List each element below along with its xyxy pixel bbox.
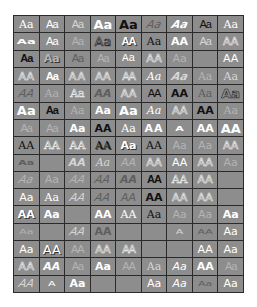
wordart-style-option[interactable]: Aa — [142, 206, 167, 222]
wordart-style-option[interactable]: AA — [116, 189, 141, 205]
wordart-style-option[interactable]: AA — [91, 120, 116, 136]
wordart-style-option[interactable]: Aa — [65, 120, 90, 136]
wordart-style-option[interactable]: AA — [193, 103, 218, 119]
wordart-style-option[interactable]: AA — [193, 120, 218, 136]
wordart-style-option[interactable]: AA — [167, 172, 192, 188]
wordart-style-option[interactable]: Aa — [193, 85, 218, 101]
wordart-style-option[interactable]: Aa — [40, 103, 65, 119]
wordart-style-option[interactable]: AA — [65, 155, 90, 171]
wordart-style-option[interactable]: AA — [218, 33, 243, 49]
wordart-style-option[interactable]: AA — [14, 206, 39, 222]
wordart-style-option[interactable]: AA — [142, 137, 167, 153]
wordart-style-option[interactable]: Aa — [65, 16, 90, 32]
wordart-style-option[interactable]: Aa — [167, 276, 192, 292]
wordart-style-option[interactable]: Aa — [116, 137, 141, 153]
wordart-style-option[interactable]: Aa — [142, 258, 167, 274]
wordart-style-option[interactable]: Aa — [40, 85, 65, 101]
wordart-style-option[interactable]: Aa — [14, 33, 39, 49]
wordart-style-option[interactable]: Aa — [40, 189, 65, 205]
wordart-style-option[interactable]: AA — [142, 189, 167, 205]
wordart-style-option[interactable]: Aa — [14, 51, 39, 67]
wordart-style-option[interactable]: Aa — [218, 258, 243, 274]
wordart-style-option[interactable]: Aa — [167, 51, 192, 67]
wordart-style-option[interactable]: Aa — [65, 85, 90, 101]
wordart-style-option[interactable]: Aa — [14, 172, 39, 188]
wordart-style-option[interactable]: AA — [91, 189, 116, 205]
wordart-style-option[interactable]: Aa — [193, 16, 218, 32]
wordart-style-option[interactable]: Aa — [14, 224, 39, 240]
wordart-style-option[interactable] — [142, 224, 167, 240]
wordart-style-option[interactable]: Aa — [218, 16, 243, 32]
wordart-style-option[interactable]: Aa — [193, 68, 218, 84]
wordart-style-option[interactable]: Aa — [167, 68, 192, 84]
wordart-style-option[interactable]: Aa — [40, 172, 65, 188]
wordart-style-option[interactable]: Aa — [218, 224, 243, 240]
wordart-style-option[interactable]: AA — [65, 137, 90, 153]
wordart-style-option[interactable] — [167, 241, 192, 257]
wordart-style-option[interactable]: Aa — [65, 103, 90, 119]
wordart-style-option[interactable]: Aa — [40, 68, 65, 84]
wordart-style-option[interactable]: AA — [65, 68, 90, 84]
wordart-style-option[interactable]: Aa — [167, 206, 192, 222]
wordart-style-option[interactable]: Aa — [14, 241, 39, 257]
wordart-style-option[interactable] — [218, 189, 243, 205]
wordart-style-option[interactable]: Aa — [142, 68, 167, 84]
wordart-style-option[interactable]: Aa — [218, 276, 243, 292]
wordart-style-option[interactable]: Aa — [167, 137, 192, 153]
wordart-style-option[interactable]: AA — [65, 224, 90, 240]
wordart-style-option[interactable]: AA — [14, 276, 39, 292]
wordart-style-option[interactable]: AA — [193, 241, 218, 257]
wordart-style-option[interactable]: Aa — [91, 155, 116, 171]
wordart-style-option[interactable]: Aa — [218, 103, 243, 119]
wordart-style-option[interactable]: AA — [91, 172, 116, 188]
wordart-style-option[interactable]: AA — [116, 172, 141, 188]
wordart-style-option[interactable]: Aa — [65, 33, 90, 49]
wordart-style-option[interactable]: AA — [40, 137, 65, 153]
wordart-style-option[interactable]: Aa — [40, 206, 65, 222]
wordart-style-option[interactable]: AA — [167, 103, 192, 119]
wordart-style-option[interactable]: Aa — [65, 258, 90, 274]
wordart-style-option[interactable]: AA — [65, 189, 90, 205]
wordart-style-option[interactable]: AA — [116, 241, 141, 257]
wordart-style-option[interactable]: Aa — [218, 241, 243, 257]
wordart-style-option[interactable]: Aa — [91, 16, 116, 32]
wordart-style-option[interactable]: AA — [91, 85, 116, 101]
wordart-style-option[interactable]: AA — [91, 241, 116, 257]
wordart-style-option[interactable]: Aa — [218, 155, 243, 171]
wordart-style-option[interactable]: Aa — [142, 33, 167, 49]
wordart-style-option[interactable]: AA — [167, 33, 192, 49]
wordart-style-option[interactable]: AA — [167, 155, 192, 171]
wordart-style-option[interactable]: Aa — [14, 155, 39, 171]
wordart-style-option[interactable]: AA — [193, 258, 218, 274]
wordart-style-option[interactable] — [91, 276, 116, 292]
wordart-style-option[interactable]: AA — [116, 85, 141, 101]
wordart-style-option[interactable]: AA — [193, 189, 218, 205]
wordart-style-option[interactable]: Aa — [218, 206, 243, 222]
wordart-style-option[interactable]: AA — [218, 137, 243, 153]
wordart-style-option[interactable]: Aa — [193, 137, 218, 153]
wordart-style-option[interactable]: Aa — [116, 120, 141, 136]
wordart-style-option[interactable]: AA — [14, 137, 39, 153]
wordart-style-option[interactable]: AA — [91, 137, 116, 153]
wordart-style-option[interactable]: AA — [14, 68, 39, 84]
wordart-style-option[interactable]: Aa — [218, 85, 243, 101]
wordart-style-option[interactable]: Aa — [40, 120, 65, 136]
wordart-style-option[interactable]: AA — [116, 33, 141, 49]
wordart-style-option[interactable] — [40, 224, 65, 240]
wordart-style-option[interactable]: AA — [142, 85, 167, 101]
wordart-style-option[interactable] — [65, 206, 90, 222]
wordart-style-option[interactable]: Aa — [40, 51, 65, 67]
wordart-style-option[interactable]: AA — [116, 155, 141, 171]
wordart-style-option[interactable]: AA — [116, 68, 141, 84]
wordart-style-option[interactable]: AA — [218, 120, 243, 136]
wordart-style-option[interactable]: Aa — [14, 120, 39, 136]
wordart-style-option[interactable]: AA — [14, 85, 39, 101]
wordart-style-option[interactable]: Aa — [40, 33, 65, 49]
wordart-style-option[interactable]: Aa — [142, 276, 167, 292]
wordart-style-option[interactable]: Aa — [167, 258, 192, 274]
wordart-style-option[interactable]: AA — [193, 224, 218, 240]
wordart-style-option[interactable]: Aa — [14, 103, 39, 119]
wordart-style-option[interactable]: Aa — [91, 258, 116, 274]
wordart-style-option[interactable]: AA — [218, 51, 243, 67]
wordart-style-option[interactable]: AA — [116, 206, 141, 222]
